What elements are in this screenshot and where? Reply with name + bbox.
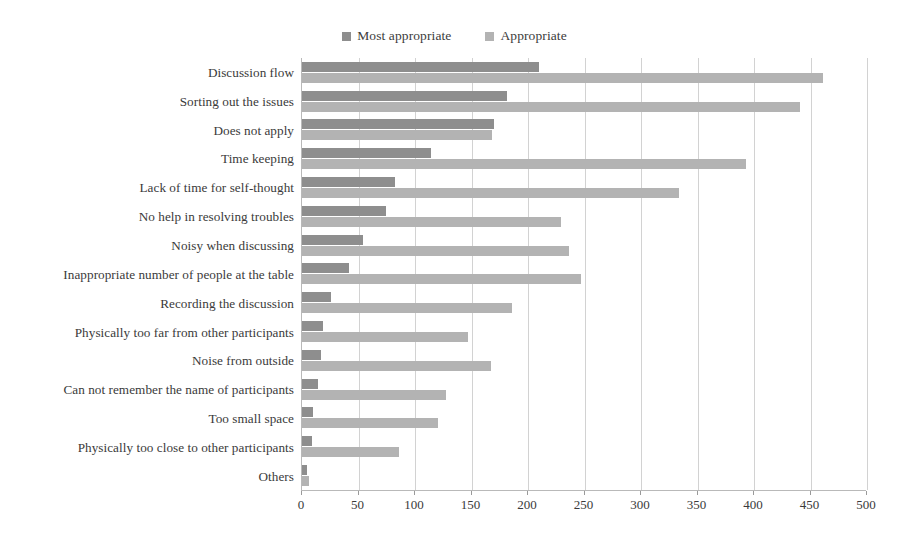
bar-group[interactable] — [302, 317, 866, 346]
bar-appropriate[interactable] — [302, 476, 309, 486]
tick-label: 0 — [298, 497, 305, 513]
legend-label-appropriate: Appropriate — [500, 28, 566, 44]
chart-legend: Most appropriate Appropriate — [0, 28, 909, 44]
bar-group[interactable] — [302, 87, 866, 116]
category-label: Inappropriate number of people at the ta… — [63, 268, 294, 281]
category-label-cell: Time keeping — [0, 145, 301, 174]
category-label-cell: Does not apply — [0, 116, 301, 145]
category-label-cell: Too small space — [0, 404, 301, 433]
category-label: Physically too far from other participan… — [75, 326, 294, 339]
category-label: Noise from outside — [192, 354, 294, 367]
category-label: Too small space — [208, 412, 294, 425]
bar-group[interactable] — [302, 173, 866, 202]
category-label-cell: Recording the discussion — [0, 289, 301, 318]
bar-most-appropriate[interactable] — [302, 62, 539, 72]
category-label: Noisy when discussing — [171, 239, 294, 252]
tick-mark — [527, 491, 528, 495]
tick-label: 350 — [687, 497, 707, 513]
tick-label: 250 — [574, 497, 594, 513]
bar-most-appropriate[interactable] — [302, 465, 307, 475]
tick-label: 150 — [461, 497, 481, 513]
category-label: Discussion flow — [208, 66, 294, 79]
horizontal-bar-chart: Discussion flowSorting out the issuesDoe… — [0, 58, 909, 518]
category-label-cell: Sorting out the issues — [0, 87, 301, 116]
bar-appropriate[interactable] — [302, 332, 468, 342]
plot-area — [301, 58, 866, 491]
bar-appropriate[interactable] — [302, 390, 446, 400]
bar-most-appropriate[interactable] — [302, 91, 507, 101]
category-label-cell: Others — [0, 462, 301, 491]
tick-label: 200 — [517, 497, 537, 513]
bar-appropriate[interactable] — [302, 159, 746, 169]
bar-appropriate[interactable] — [302, 361, 491, 371]
bar-group[interactable] — [302, 202, 866, 231]
category-label-cell: Noise from outside — [0, 347, 301, 376]
bar-group[interactable] — [302, 144, 866, 173]
bar-group[interactable] — [302, 260, 866, 289]
tick-mark — [471, 491, 472, 495]
tick-label: 450 — [800, 497, 820, 513]
legend-entry-appropriate: Appropriate — [485, 28, 566, 44]
bar-most-appropriate[interactable] — [302, 263, 349, 273]
tick-label: 500 — [856, 497, 876, 513]
bar-appropriate[interactable] — [302, 130, 492, 140]
bar-appropriate[interactable] — [302, 188, 679, 198]
bar-appropriate[interactable] — [302, 217, 561, 227]
tick-mark — [301, 491, 302, 495]
tick-mark — [584, 491, 585, 495]
category-label: Does not apply — [213, 124, 294, 137]
category-label: No help in resolving troubles — [139, 210, 294, 223]
bar-appropriate[interactable] — [302, 73, 823, 83]
bar-most-appropriate[interactable] — [302, 206, 386, 216]
bar-appropriate[interactable] — [302, 102, 800, 112]
bar-most-appropriate[interactable] — [302, 235, 363, 245]
category-label: Recording the discussion — [160, 297, 294, 310]
bar-group[interactable] — [302, 346, 866, 375]
tick-label: 300 — [630, 497, 650, 513]
bar-most-appropriate[interactable] — [302, 407, 313, 417]
tick-label: 50 — [351, 497, 364, 513]
legend-swatch-most-appropriate — [342, 32, 351, 41]
bar-most-appropriate[interactable] — [302, 321, 323, 331]
category-label: Time keeping — [221, 152, 294, 165]
bar-appropriate[interactable] — [302, 418, 438, 428]
bar-most-appropriate[interactable] — [302, 292, 331, 302]
bar-appropriate[interactable] — [302, 303, 512, 313]
bar-most-appropriate[interactable] — [302, 177, 395, 187]
tick-mark — [753, 491, 754, 495]
bar-most-appropriate[interactable] — [302, 119, 494, 129]
bar-most-appropriate[interactable] — [302, 436, 312, 446]
legend-label-most-appropriate: Most appropriate — [357, 28, 451, 44]
category-label-cell: Noisy when discussing — [0, 231, 301, 260]
gridline — [867, 58, 868, 490]
category-label: Can not remember the name of participant… — [63, 383, 294, 396]
bar-appropriate[interactable] — [302, 447, 399, 457]
bar-group[interactable] — [302, 116, 866, 145]
category-label-cell: Physically too close to other participan… — [0, 433, 301, 462]
category-label-cell: Physically too far from other participan… — [0, 318, 301, 347]
bar-group[interactable] — [302, 404, 866, 433]
bar-appropriate[interactable] — [302, 274, 581, 284]
tick-mark — [414, 491, 415, 495]
legend-swatch-appropriate — [485, 32, 494, 41]
category-label-cell: No help in resolving troubles — [0, 202, 301, 231]
bar-appropriate[interactable] — [302, 246, 569, 256]
category-label: Physically too close to other participan… — [78, 441, 294, 454]
bar-most-appropriate[interactable] — [302, 379, 318, 389]
bar-most-appropriate[interactable] — [302, 148, 431, 158]
tick-mark — [358, 491, 359, 495]
category-label: Others — [259, 470, 294, 483]
category-axis-labels: Discussion flowSorting out the issuesDoe… — [0, 58, 301, 491]
bar-group[interactable] — [302, 288, 866, 317]
tick-mark — [866, 491, 867, 495]
bar-group[interactable] — [302, 58, 866, 87]
tick-mark — [640, 491, 641, 495]
bar-group[interactable] — [302, 231, 866, 260]
bar-group[interactable] — [302, 375, 866, 404]
category-label-cell: Discussion flow — [0, 58, 301, 87]
legend-entry-most-appropriate: Most appropriate — [342, 28, 451, 44]
bar-group[interactable] — [302, 461, 866, 490]
bar-most-appropriate[interactable] — [302, 350, 321, 360]
tick-mark — [810, 491, 811, 495]
bar-group[interactable] — [302, 432, 866, 461]
